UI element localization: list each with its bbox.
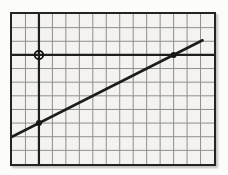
y-intercept-point [36, 120, 42, 126]
graph-figure [10, 12, 216, 166]
worksheet-page [0, 0, 228, 175]
coordinate-grid [12, 14, 214, 164]
x-intercept-point [171, 52, 177, 58]
